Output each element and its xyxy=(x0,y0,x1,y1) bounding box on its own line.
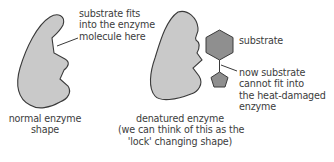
cannot-fit-label-line: now substrate xyxy=(239,67,326,78)
active-site-label-line: into the enzyme xyxy=(79,19,155,30)
caption-line: 'lock' changing shape) xyxy=(118,136,242,147)
denatured-enzyme-shape xyxy=(150,11,202,99)
cannot-fit-label-line: the heat-damaged xyxy=(239,90,326,101)
caption-line: shape xyxy=(5,124,85,135)
active-site-label: substrate fits into the enzyme molecule … xyxy=(79,8,155,42)
substrate-pentagon xyxy=(211,72,228,87)
active-site-pointer xyxy=(57,38,78,46)
active-site-label-line: substrate fits xyxy=(79,8,155,19)
substrate-label-text: substrate xyxy=(239,35,283,46)
cannot-fit-label: now substrate cannot fit into the heat-d… xyxy=(239,67,326,113)
substrate-hexagon xyxy=(206,30,233,60)
cannot-fit-label-line: cannot fit into xyxy=(239,78,326,89)
active-site-label-line: molecule here xyxy=(79,31,155,42)
caption-line: normal enzyme xyxy=(5,113,85,124)
normal-enzyme-caption: normal enzyme shape xyxy=(5,113,85,136)
caption-line: (we can think of this as the xyxy=(118,124,242,135)
cannot-fit-pointer xyxy=(221,65,237,71)
normal-enzyme-shape xyxy=(18,15,70,108)
substrate-label: substrate xyxy=(239,35,283,46)
caption-line: denatured enzyme xyxy=(118,113,242,124)
denatured-enzyme-caption: denatured enzyme (we can think of this a… xyxy=(118,113,242,147)
cannot-fit-label-line: enzyme xyxy=(239,101,326,112)
